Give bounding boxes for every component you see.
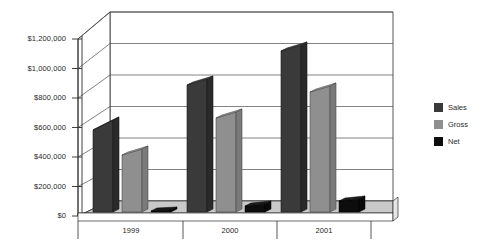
x-tick-label-1999: 1999 (106, 226, 156, 235)
x-tick-label-2001: 2001 (299, 226, 349, 235)
legend-item-sales: Sales (434, 100, 500, 115)
bar-chart: $1,200,000 $1,000,000 $800,000 $600,000 … (0, 0, 503, 250)
x-tick-label-2000: 2000 (205, 226, 255, 235)
legend-label-net: Net (448, 137, 460, 146)
legend-item-gross: Gross (434, 117, 500, 132)
chart-legend: Sales Gross Net (434, 100, 500, 151)
legend-swatch-sales (434, 103, 443, 112)
legend-item-net: Net (434, 134, 500, 149)
legend-label-sales: Sales (448, 103, 467, 112)
legend-label-gross: Gross (448, 120, 468, 129)
legend-swatch-gross (434, 120, 443, 129)
legend-swatch-net (434, 137, 443, 146)
x-axis-labels: 1999 2000 2001 (0, 0, 503, 250)
